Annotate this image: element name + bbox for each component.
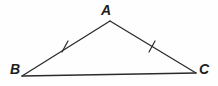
side-ac-line	[110, 21, 196, 73]
side-bc-line	[22, 73, 196, 76]
vertex-label-a: A	[101, 3, 111, 17]
vertex-label-b: B	[10, 62, 20, 76]
tick-mark-side-ab	[62, 41, 68, 52]
tick-mark-side-ac	[149, 41, 155, 52]
geometry-figure: A B C	[0, 0, 218, 86]
side-ab-line	[22, 21, 110, 76]
vertex-label-c: C	[199, 62, 209, 76]
